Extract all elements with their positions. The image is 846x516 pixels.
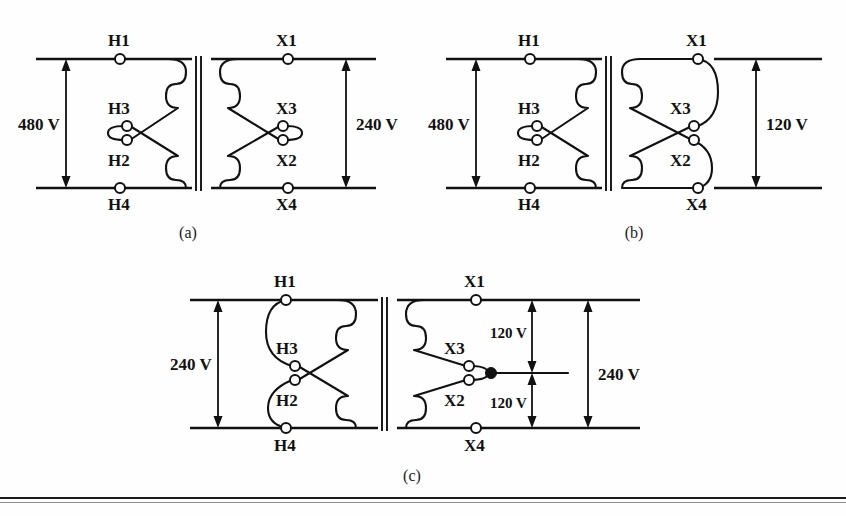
terminal-h4-a[interactable] — [115, 183, 125, 193]
label-h4-a: H4 — [108, 195, 130, 214]
secondary-coil-upper-c — [406, 300, 476, 366]
dimension-arrow-upper-bottom-c — [528, 361, 537, 373]
terminal-x4-a[interactable] — [283, 183, 293, 193]
label-x4-b: X4 — [686, 195, 707, 214]
terminal-h4-c[interactable] — [281, 423, 291, 433]
secondary-jumper-x2-x4-b — [692, 140, 712, 188]
label-h3-b: H3 — [518, 99, 540, 118]
label-x3-b: X3 — [670, 99, 691, 118]
label-x2-c: X2 — [444, 391, 465, 410]
primary-voltage-label-b: 480 V — [428, 115, 470, 134]
voltage-label-upper-c: 120 V — [490, 325, 527, 341]
label-h1-c: H1 — [274, 272, 296, 291]
terminal-x1-b[interactable] — [693, 54, 703, 64]
voltage-label-total-c: 240 V — [598, 365, 640, 384]
terminal-x2-c[interactable] — [464, 375, 474, 385]
label-h4-c: H4 — [274, 436, 296, 455]
terminal-h1-a[interactable] — [115, 54, 125, 64]
label-x1-a: X1 — [276, 31, 297, 50]
dimension-arrow-down-b — [472, 176, 481, 188]
terminal-x1-a[interactable] — [283, 54, 293, 64]
terminal-x2-b[interactable] — [689, 135, 699, 145]
secondary-dimension-arrow-up-a — [342, 59, 351, 71]
page-bottom-rule-secondary — [0, 502, 846, 503]
secondary-dimension-arrow-down-b — [752, 176, 761, 188]
terminal-h4-b[interactable] — [525, 183, 535, 193]
terminal-h1-c[interactable] — [281, 295, 291, 305]
primary-voltage-label-a: 480 V — [18, 115, 60, 134]
dimension-arrow-total-top-c — [584, 300, 593, 312]
diagram-a-svg: 480 V 240 V — [0, 22, 420, 262]
terminal-h3-a[interactable] — [122, 121, 132, 131]
dimension-arrow-up-c — [214, 300, 223, 312]
diagram-a: 480 V 240 V — [0, 22, 420, 262]
primary-voltage-label-c: 240 V — [170, 355, 212, 374]
label-h2-c: H2 — [276, 391, 298, 410]
label-x1-c: X1 — [464, 272, 485, 291]
label-h2-b: H2 — [518, 151, 540, 170]
diagram-b-svg: 480 V 120 V — [422, 22, 846, 262]
secondary-voltage-label-b: 120 V — [766, 115, 808, 134]
terminal-x3-a[interactable] — [278, 121, 288, 131]
caption-b: (b) — [625, 224, 644, 242]
label-h3-a: H3 — [108, 99, 130, 118]
center-tap-junction-dot-c — [486, 368, 497, 379]
label-x2-b: X2 — [670, 151, 691, 170]
caption-c: (c) — [403, 467, 421, 485]
diagram-c: 240 V 120 V — [160, 268, 680, 498]
terminal-h2-b[interactable] — [532, 135, 542, 145]
label-x1-b: X1 — [686, 31, 707, 50]
dimension-arrow-lower-top-c — [528, 373, 537, 385]
dimension-arrow-up-a — [62, 59, 71, 71]
secondary-coil-lower-c — [406, 380, 476, 428]
label-h1-b: H1 — [518, 31, 540, 50]
label-h1-a: H1 — [108, 31, 130, 50]
label-h3-c: H3 — [276, 339, 298, 358]
secondary-dimension-arrow-down-a — [342, 176, 351, 188]
dimension-arrow-lower-bottom-c — [528, 416, 537, 428]
terminal-x4-c[interactable] — [471, 423, 481, 433]
dimension-arrow-total-bottom-c — [584, 416, 593, 428]
terminal-x3-b[interactable] — [689, 121, 699, 131]
terminal-h2-c[interactable] — [290, 375, 300, 385]
label-h4-b: H4 — [518, 195, 540, 214]
label-x4-c: X4 — [464, 436, 485, 455]
terminal-x1-c[interactable] — [471, 295, 481, 305]
secondary-jumper-x1-x3-b — [698, 59, 718, 126]
label-x4-a: X4 — [276, 195, 297, 214]
diagram-b: 480 V 120 V — [422, 22, 846, 262]
terminal-x3-c[interactable] — [464, 361, 474, 371]
terminal-h3-b[interactable] — [532, 121, 542, 131]
terminal-x4-b[interactable] — [693, 183, 703, 193]
secondary-voltage-label-a: 240 V — [356, 115, 398, 134]
terminal-h1-b[interactable] — [525, 54, 535, 64]
figure-page: 480 V 240 V — [0, 0, 846, 516]
label-h2-a: H2 — [108, 151, 130, 170]
label-x3-c: X3 — [444, 339, 465, 358]
dimension-arrow-down-c — [214, 416, 223, 428]
terminal-h3-c[interactable] — [290, 361, 300, 371]
page-bottom-rule — [0, 497, 846, 499]
voltage-label-lower-c: 120 V — [490, 395, 527, 411]
label-x3-a: X3 — [276, 99, 297, 118]
caption-a: (a) — [179, 224, 197, 242]
dimension-arrow-up-b — [472, 59, 481, 71]
secondary-dimension-arrow-up-b — [752, 59, 761, 71]
dimension-arrow-upper-top-c — [528, 300, 537, 312]
terminal-h2-a[interactable] — [122, 135, 132, 145]
diagram-c-svg: 240 V 120 V — [160, 268, 680, 498]
label-x2-a: X2 — [276, 151, 297, 170]
terminal-x2-a[interactable] — [278, 135, 288, 145]
dimension-arrow-down-a — [62, 176, 71, 188]
